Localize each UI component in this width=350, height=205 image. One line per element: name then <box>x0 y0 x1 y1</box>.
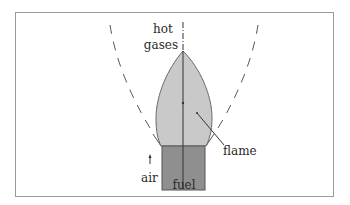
label-gases: gases <box>144 38 178 52</box>
axis-marker-dot <box>182 102 184 104</box>
label-flame: flame <box>223 144 257 158</box>
label-air: air <box>141 171 158 185</box>
diffusion-flame-diagram: hot gases flame air fuel <box>0 0 350 205</box>
leader-dot <box>196 112 198 114</box>
label-hot: hot <box>153 22 173 36</box>
label-fuel: fuel <box>172 178 195 192</box>
